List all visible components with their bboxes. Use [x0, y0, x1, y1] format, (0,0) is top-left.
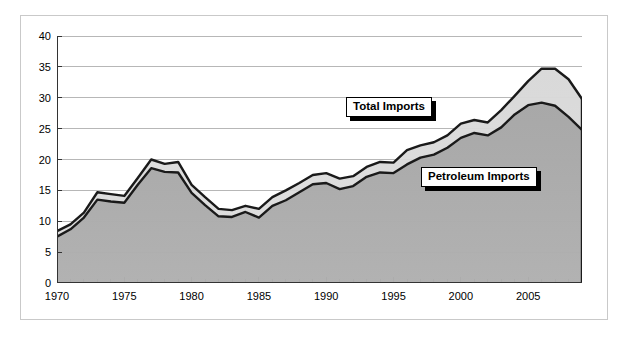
x-tick-label-2000: 2000 — [449, 291, 473, 302]
y-tick-label-35: 35 — [27, 62, 51, 73]
y-tick-label-20: 20 — [27, 155, 51, 166]
plot-area — [57, 36, 582, 283]
y-tick-label-30: 30 — [27, 93, 51, 104]
y-tick-label-40: 40 — [27, 31, 51, 42]
x-tick-label-1995: 1995 — [381, 291, 405, 302]
legend-label-total-imports: Total Imports — [346, 97, 432, 117]
y-tick-label-25: 25 — [27, 124, 51, 135]
legend-label-petroleum-imports: Petroleum Imports — [421, 167, 537, 187]
y-axis-tick-labels: 0510152025303540 — [23, 36, 51, 283]
chart-canvas — [57, 36, 582, 283]
x-tick-label-1980: 1980 — [179, 291, 203, 302]
x-tick-label-1975: 1975 — [112, 291, 136, 302]
y-tick-label-15: 15 — [27, 185, 51, 196]
y-tick-label-0: 0 — [27, 278, 51, 289]
area-fill-petroleum-imports — [57, 103, 582, 283]
x-tick-label-1985: 1985 — [247, 291, 271, 302]
x-tick-label-1970: 1970 — [45, 291, 69, 302]
chart-root: 0510152025303540 19701975198019851990199… — [0, 0, 627, 338]
x-tick-label-1990: 1990 — [314, 291, 338, 302]
x-tick-label-2005: 2005 — [516, 291, 540, 302]
y-tick-label-10: 10 — [27, 216, 51, 227]
y-tick-label-5: 5 — [27, 247, 51, 258]
x-axis-tick-labels: 19701975198019851990199520002005 — [57, 289, 582, 307]
